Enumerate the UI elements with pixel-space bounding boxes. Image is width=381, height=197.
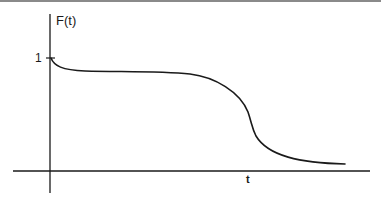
curve-F-of-t	[51, 58, 345, 164]
chart: F(t) 1 t	[0, 0, 381, 197]
y-axis-label: F(t)	[56, 13, 76, 28]
y-tick-label-one: 1	[35, 51, 42, 65]
x-axis-label: t	[246, 173, 250, 185]
